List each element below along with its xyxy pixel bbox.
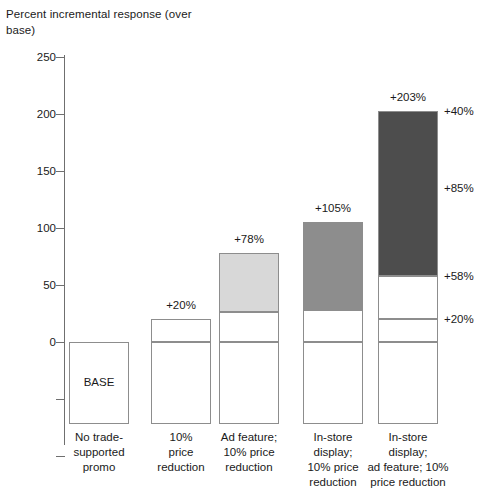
bar-segment-base[interactable]: BASE [69, 342, 129, 424]
y-axis-tick-label: 200 [16, 108, 56, 120]
y-axis-tick [56, 285, 65, 286]
category-label-line: supported [56, 445, 142, 460]
y-axis-tick [56, 342, 65, 343]
category-label-3: Ad feature;10% pricereduction [206, 430, 292, 475]
y-axis-tick-label: 150 [16, 165, 56, 177]
category-label-5: In-storedisplay;ad feature; 10%price red… [355, 430, 461, 490]
bar-segment-combined-uplift[interactable] [378, 111, 438, 276]
bar-segment-display-uplift[interactable] [378, 276, 438, 319]
category-label-1: No trade-supportedpromo [56, 430, 142, 475]
bar-segment-price-reduction[interactable] [303, 310, 363, 342]
y-axis-tick-label: 50 [16, 279, 56, 291]
y-axis-tick-label: 250 [16, 51, 56, 63]
annotation-plus-40: +40% [444, 105, 474, 117]
y-axis-tick [56, 228, 65, 229]
annotation-plus-85: +85% [444, 182, 474, 194]
bar-segment-price-reduction[interactable] [378, 319, 438, 342]
bar-segment-price-reduction[interactable] [219, 312, 279, 342]
bar-segment-price-reduction[interactable] [151, 319, 211, 342]
bar-segment-ad-feature[interactable] [219, 253, 279, 312]
y-axis-tick [56, 399, 65, 400]
category-label-line: price reduction [355, 475, 461, 490]
y-axis-tick [56, 57, 65, 58]
bar-total-label-2: +20% [166, 299, 196, 311]
bar-segment-label: BASE [70, 376, 128, 388]
category-label-line: promo [56, 460, 142, 475]
category-label-line: No trade- [56, 430, 142, 445]
bar-1[interactable]: BASE [69, 0, 129, 486]
bar-segment-base[interactable] [303, 342, 363, 424]
bar-segment-base[interactable] [151, 342, 211, 424]
bar-segment-in-store-display[interactable] [303, 222, 363, 310]
category-label-line: Ad feature; [206, 430, 292, 445]
annotation-plus-58: +58% [444, 270, 474, 282]
y-axis-tick [56, 171, 65, 172]
bar-segment-base[interactable] [378, 342, 438, 424]
bar-total-label-4: +105% [315, 202, 351, 214]
annotation-plus-20: +20% [444, 313, 474, 325]
y-axis-tick-label: 0 [16, 336, 56, 348]
category-label-line: 10% price [206, 445, 292, 460]
bar-4[interactable] [303, 0, 363, 486]
category-label-line: display; [355, 445, 461, 460]
bar-5[interactable] [378, 0, 438, 486]
bar-2[interactable] [151, 0, 211, 486]
y-axis-tick [56, 114, 65, 115]
category-label-line: reduction [206, 460, 292, 475]
category-label-line: In-store [355, 430, 461, 445]
bar-total-label-3: +78% [234, 233, 264, 245]
bar-segment-base[interactable] [219, 342, 279, 424]
bar-total-label-5: +203% [390, 91, 426, 103]
category-label-line: ad feature; 10% [355, 460, 461, 475]
y-axis-tick-label: 100 [16, 222, 56, 234]
